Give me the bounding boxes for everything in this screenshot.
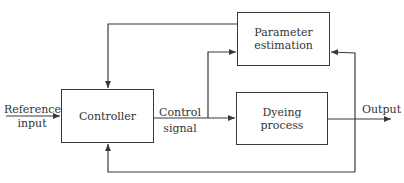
estimation-to-controller-arrow [108, 24, 237, 88]
parameter-estimation-label-line1: Parameter [254, 26, 312, 39]
controller-block: Controller [61, 89, 154, 143]
reference-input-label: Reference input [4, 103, 60, 130]
reference-input-label-line1: Reference [4, 103, 60, 116]
control-block-diagram: Controller Parameter estimation Dyeing p… [0, 0, 404, 183]
dyeing-process-block: Dyeing process [236, 92, 328, 145]
dyeing-process-label-line1: Dyeing [262, 106, 301, 119]
reference-input-label-line2: input [4, 117, 60, 130]
control-signal-label: Control signal [157, 106, 203, 135]
control-signal-label-line2: signal [157, 122, 203, 135]
dyeing-process-label-line2: process [261, 119, 304, 132]
parameter-estimation-label-line2: estimation [254, 39, 313, 52]
control-signal-to-estimation-arrow [208, 52, 236, 118]
output-label: Output [362, 103, 401, 116]
output-to-estimation-arrow [331, 52, 355, 172]
parameter-estimation-block: Parameter estimation [237, 12, 330, 66]
control-signal-label-line1: Control [157, 106, 203, 119]
controller-label: Controller [79, 110, 136, 123]
output-to-controller-arrow [108, 144, 355, 172]
